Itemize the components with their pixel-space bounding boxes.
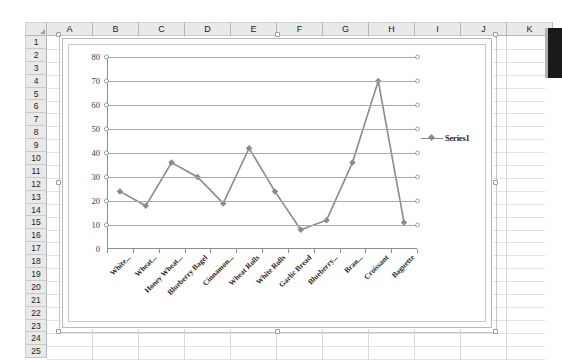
y-tick-label: 70 — [92, 76, 101, 86]
row-header-19[interactable]: 19 — [25, 268, 47, 281]
y-gridline — [107, 57, 417, 58]
row-header-25[interactable]: 25 — [25, 345, 47, 358]
legend-series-label: Series1 — [445, 133, 470, 143]
x-axis-label: Croissant — [362, 253, 390, 281]
right-tick-marker — [415, 103, 420, 108]
row-header-12[interactable]: 12 — [25, 178, 47, 191]
right-tick-marker — [415, 223, 420, 228]
y-tick-marker — [104, 151, 109, 156]
row-header-9[interactable]: 9 — [25, 139, 47, 152]
column-header-j[interactable]: J — [461, 22, 507, 36]
row-header-2[interactable]: 2 — [25, 49, 47, 62]
resize-handle-e[interactable] — [493, 180, 498, 185]
right-tick-marker — [415, 79, 420, 84]
row-header-6[interactable]: 6 — [25, 100, 47, 113]
data-point-marker[interactable] — [323, 217, 330, 224]
resize-handle-sw[interactable] — [56, 329, 61, 334]
chart-legend[interactable]: Series1 — [421, 133, 470, 143]
y-tick-label: 20 — [92, 196, 101, 206]
right-tick-marker — [415, 151, 420, 156]
y-tick-label: 50 — [92, 124, 101, 134]
row-header-15[interactable]: 15 — [25, 216, 47, 229]
row-header-1[interactable]: 1 — [25, 36, 47, 49]
y-tick-marker — [104, 199, 109, 204]
grid-row-divider — [47, 346, 545, 347]
row-header-8[interactable]: 8 — [25, 126, 47, 139]
y-gridline — [107, 153, 417, 154]
y-tick-label: 10 — [92, 220, 101, 230]
chart-object[interactable]: 01020304050607080 White...Wheat...Honey … — [62, 38, 492, 328]
data-point-marker[interactable] — [349, 159, 356, 166]
column-header-a[interactable]: A — [47, 22, 93, 36]
y-gridline — [107, 201, 417, 202]
y-gridline — [107, 81, 417, 82]
y-tick-label: 40 — [92, 148, 101, 158]
column-header-g[interactable]: G — [323, 22, 369, 36]
row-header-11[interactable]: 11 — [25, 165, 47, 178]
row-header-22[interactable]: 22 — [25, 307, 47, 320]
row-header-20[interactable]: 20 — [25, 281, 47, 294]
x-axis-label: Bran... — [343, 253, 365, 275]
y-tick-marker — [104, 103, 109, 108]
y-tick-label: 60 — [92, 100, 101, 110]
row-header-3[interactable]: 3 — [25, 62, 47, 75]
resize-handle-s[interactable] — [275, 329, 280, 334]
right-tick-marker — [415, 199, 420, 204]
x-tick-mark — [417, 249, 418, 253]
spreadsheet-window: ABCDEFGHIJK 1234567891011121314151617181… — [0, 0, 562, 360]
grid-row-divider — [47, 333, 545, 334]
y-tick-marker — [104, 79, 109, 84]
row-header-column: 1234567891011121314151617181920212223242… — [25, 36, 47, 358]
select-all-button[interactable] — [25, 22, 47, 36]
grid-column-divider — [506, 36, 507, 360]
row-header-17[interactable]: 17 — [25, 242, 47, 255]
y-gridline — [107, 105, 417, 106]
row-header-23[interactable]: 23 — [25, 320, 47, 333]
y-gridline — [107, 129, 417, 130]
y-gridline — [107, 225, 417, 226]
resize-handle-nw[interactable] — [56, 32, 61, 37]
row-header-16[interactable]: 16 — [25, 229, 47, 242]
resize-handle-se[interactable] — [493, 329, 498, 334]
x-axis-label: White... — [108, 253, 132, 277]
row-header-10[interactable]: 10 — [25, 152, 47, 165]
y-tick-label: 80 — [92, 52, 101, 62]
y-tick-label: 0 — [96, 244, 100, 254]
row-header-18[interactable]: 18 — [25, 255, 47, 268]
column-header-e[interactable]: E — [231, 22, 277, 36]
legend-marker-icon — [421, 138, 443, 139]
row-header-7[interactable]: 7 — [25, 113, 47, 126]
right-edge-panel[interactable] — [548, 28, 562, 78]
right-tick-marker — [415, 127, 420, 132]
row-header-5[interactable]: 5 — [25, 88, 47, 101]
series1-polyline — [120, 81, 404, 230]
row-header-24[interactable]: 24 — [25, 332, 47, 345]
chart-plot-frame: 01020304050607080 White...Wheat...Honey … — [68, 44, 486, 322]
right-tick-marker — [415, 55, 420, 60]
resize-handle-ne[interactable] — [493, 32, 498, 37]
resize-handle-n[interactable] — [275, 32, 280, 37]
column-header-f[interactable]: F — [277, 22, 323, 36]
data-point-marker[interactable] — [117, 188, 124, 195]
row-header-21[interactable]: 21 — [25, 294, 47, 307]
y-gridline — [107, 177, 417, 178]
column-header-i[interactable]: I — [415, 22, 461, 36]
plot-area: 01020304050607080 — [107, 57, 417, 249]
y-tick-label: 30 — [92, 172, 101, 182]
y-tick-marker — [104, 55, 109, 60]
column-header-h[interactable]: H — [369, 22, 415, 36]
right-tick-marker — [415, 175, 420, 180]
column-header-d[interactable]: D — [185, 22, 231, 36]
y-tick-marker — [104, 175, 109, 180]
y-tick-marker — [104, 127, 109, 132]
row-header-14[interactable]: 14 — [25, 204, 47, 217]
x-axis-label: Baguette — [390, 253, 417, 280]
row-header-4[interactable]: 4 — [25, 75, 47, 88]
row-header-13[interactable]: 13 — [25, 191, 47, 204]
y-tick-marker — [104, 223, 109, 228]
column-header-b[interactable]: B — [93, 22, 139, 36]
resize-handle-w[interactable] — [56, 180, 61, 185]
x-axis-labels: White...Wheat...Honey Wheat...Blueberry … — [107, 253, 417, 317]
column-header-c[interactable]: C — [139, 22, 185, 36]
column-header-row: ABCDEFGHIJK — [47, 22, 553, 36]
